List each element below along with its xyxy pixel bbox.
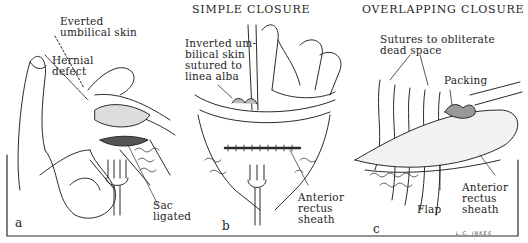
panel-a-drawing [18,36,175,218]
panel-letter-b: b [222,219,230,233]
label-everted-umbilical-skin: Everted umbilical skin [60,16,137,38]
panel-b-title: SIMPLE CLOSURE [192,3,310,16]
label-hernial-defect: Hernial defect [52,55,94,77]
panel-letter-c: c [373,222,380,236]
panel-c-title: OVERLAPPING CLOSURE [362,3,524,16]
label-anterior-rectus-sheath-b: Anterior rectus sheath [298,192,344,225]
panel-letter-a: a [15,216,22,230]
surgical-illustration: SIMPLE CLOSURE OVERLAPPING CLOSURE Evert… [0,0,528,243]
label-flap: Flap [417,204,441,215]
label-inverted-umbilical-skin: Inverted um- bilical skin sutured to lin… [185,38,256,82]
frame-line [7,155,518,236]
label-sutures-obliterate-dead-space: Sutures to obliterate dead space [380,34,495,56]
label-anterior-rectus-sheath-c: Anterior rectus sheath [462,182,508,215]
label-packing: Packing [444,75,487,86]
label-sac-ligated: Sac ligated [153,200,191,222]
artist-signature: L.C. INKES [456,230,492,236]
